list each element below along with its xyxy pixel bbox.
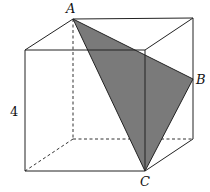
- edge-back-top: [73, 18, 193, 19]
- label-c: C: [140, 174, 150, 189]
- label-b: B: [195, 72, 206, 87]
- edge-length-label: 4: [10, 104, 18, 119]
- hidden-edge-bottom-left-depth: [25, 139, 73, 171]
- triangle-abc: [73, 19, 193, 171]
- edge-top-right-depth: [145, 18, 193, 50]
- edge-top-left-depth: [25, 19, 73, 50]
- cube-diagram: A B C 4: [0, 0, 210, 192]
- label-a: A: [65, 1, 75, 16]
